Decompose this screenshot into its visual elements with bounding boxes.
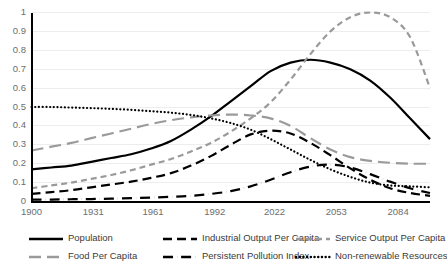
legend-label-population: Population [68,232,113,243]
gridlines-group [32,13,431,183]
legend-item-population[interactable]: Population [28,229,113,245]
y-tick-label: 0.2 [2,157,26,168]
x-tick-label: 2053 [316,206,356,217]
series-group [32,13,431,200]
legend-item-service-output-per-capita[interactable]: Service Output Per Capita [295,229,445,245]
series-line-non-renewable-resources [32,107,431,187]
x-tick-label: 1961 [133,206,173,217]
legend-row-bottom: Food Per Capita Persistent Pollution Ind… [0,247,438,264]
y-tick-label: 0.6 [2,82,26,93]
x-tick-label: 1931 [73,206,113,217]
x-tick-label: 2084 [378,206,418,217]
legend-item-non-renewable-resources[interactable]: Non-renewable Resources [295,247,447,263]
legend-item-persistent-pollution-index[interactable]: Persistent Pollution Index [162,247,309,263]
legend-swatch-non-renewable-resources [295,249,331,261]
y-tick-label: 1 [2,6,26,17]
y-tick-label: 0.3 [2,138,26,149]
legend-swatch-industrial-output-per-capita [162,231,198,243]
legend-swatch-service-output-per-capita [295,231,331,243]
legend-label-food-per-capita: Food Per Capita [68,250,137,261]
legend-label-non-renewable-resources: Non-renewable Resources [335,250,447,261]
y-tick-label: 0.5 [2,101,26,112]
legend-label-service-output-per-capita: Service Output Per Capita [335,232,445,243]
y-tick-label: 0 [2,195,26,206]
x-tick-label: 2022 [255,206,295,217]
legend-row-top: Population Industrial Output Per Capita … [0,229,438,246]
legend-swatch-food-per-capita [28,249,64,261]
x-tick-label: 1992 [195,206,235,217]
legend-swatch-population [28,231,64,243]
x-tick-label: 1900 [12,206,52,217]
chart-legend: Population Industrial Output Per Capita … [0,228,438,265]
y-tick-label: 0.4 [2,119,26,130]
y-tick-label: 0.1 [2,176,26,187]
y-tick-label: 0.9 [2,25,26,36]
y-tick-label: 0.8 [2,44,26,55]
legend-label-persistent-pollution-index: Persistent Pollution Index [202,250,309,261]
y-tick-label: 0.7 [2,63,26,74]
legend-item-food-per-capita[interactable]: Food Per Capita [28,247,137,263]
legend-swatch-persistent-pollution-index [162,249,198,261]
